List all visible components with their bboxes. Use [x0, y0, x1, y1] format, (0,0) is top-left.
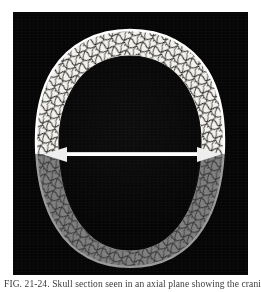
- figure-caption: FIG. 21-24. Skull section seen in an axi…: [4, 279, 261, 290]
- figure-root: FIG. 21-24. Skull section seen in an axi…: [0, 0, 261, 292]
- scan-image-panel: [13, 12, 248, 275]
- skull-cross-section-graphic: [13, 12, 248, 275]
